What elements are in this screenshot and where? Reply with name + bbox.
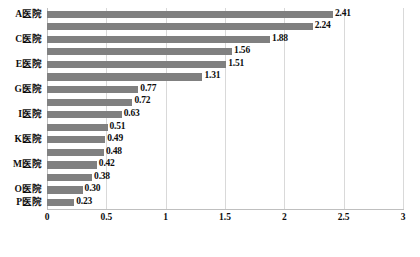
bar[interactable] [47,86,138,93]
bar-value-label: 0.38 [94,170,110,182]
bar-value-label: 0.77 [140,82,156,94]
category-label-P医院: P医院 [16,196,42,209]
bar-row: 1.88 [47,33,403,46]
bars-layer: 2.412.241.881.561.511.310.770.720.630.51… [47,8,403,209]
x-tick-1.5: 1.5 [219,210,231,224]
category-label-I医院: I医院 [18,108,42,121]
bar-chart-figure: A医院C医院E医院G医院I医院K医院M医院O医院P医院 2.412.241.88… [0,0,420,257]
bar[interactable] [47,136,105,143]
bar-row: 1.31 [47,71,403,84]
bar-value-label: 0.30 [85,182,101,194]
bar-value-label: 0.23 [76,195,92,207]
bar-value-label: 0.49 [107,132,123,144]
bar-row: 0.63 [47,109,403,122]
plot-area: 2.412.241.881.561.511.310.770.720.630.51… [47,8,403,209]
bar[interactable] [47,48,232,55]
bar[interactable] [47,174,92,181]
bar[interactable] [47,99,132,106]
category-label-K医院: K医院 [15,133,42,146]
x-axis-tick-labels: 00.511.522.53 [47,210,403,226]
x-tick-0: 0 [45,210,50,224]
bar-value-label: 0.42 [99,157,115,169]
bar[interactable] [47,61,226,68]
category-label-E医院: E医院 [16,58,42,71]
bar-value-label: 0.51 [110,120,126,132]
bar-row: 0.77 [47,83,403,96]
bar-row: 0.49 [47,134,403,147]
x-tick-0.5: 0.5 [100,210,112,224]
bar-row: 0.30 [47,184,403,197]
bar-row: 2.24 [47,21,403,34]
category-label-M医院: M医院 [13,158,42,171]
bar-row: 2.41 [47,8,403,21]
gridline-3 [403,8,404,209]
bar[interactable] [47,36,270,43]
bar[interactable] [47,73,202,80]
bar-value-label: 1.51 [228,57,244,69]
bar-value-label: 0.48 [106,145,122,157]
bar-value-label: 2.41 [335,7,351,19]
category-label-C医院: C医院 [15,33,42,46]
category-label-G医院: G医院 [15,83,42,96]
x-tick-1: 1 [163,210,168,224]
bar-value-label: 0.63 [124,107,140,119]
bar[interactable] [47,23,313,30]
x-tick-2: 2 [282,210,287,224]
bar[interactable] [47,124,108,131]
bar[interactable] [47,149,104,156]
bar[interactable] [47,161,97,168]
bar[interactable] [47,111,122,118]
bar-row: 0.51 [47,121,403,134]
bar-value-label: 1.88 [272,32,288,44]
bar-row: 0.72 [47,96,403,109]
category-label-A医院: A医院 [15,8,42,21]
x-tick-2.5: 2.5 [338,210,350,224]
bar[interactable] [47,199,74,206]
bar-row: 0.23 [47,196,403,209]
bar-row: 1.56 [47,46,403,59]
bar-value-label: 1.56 [234,44,250,56]
bar-value-label: 2.24 [315,19,331,31]
bar[interactable] [47,11,333,18]
category-axis-labels: A医院C医院E医院G医院I医院K医院M医院O医院P医院 [0,8,45,209]
bar-value-label: 1.31 [204,69,220,81]
category-label-O医院: O医院 [15,183,42,196]
bar[interactable] [47,186,83,193]
x-tick-3: 3 [401,210,406,224]
bar-row: 1.51 [47,58,403,71]
bar-value-label: 0.72 [134,94,150,106]
